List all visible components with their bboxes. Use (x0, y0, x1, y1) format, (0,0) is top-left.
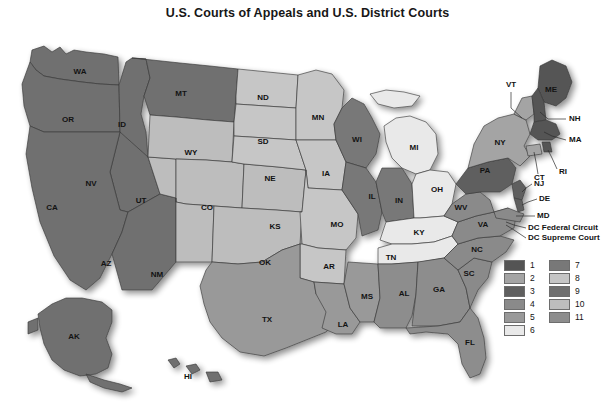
callout-label-NH: NH (569, 114, 581, 123)
legend-swatch-11 (549, 312, 570, 323)
legend-swatch-1 (504, 260, 525, 271)
state-PA[interactable] (456, 158, 516, 194)
state-HI[interactable] (168, 358, 222, 382)
legend-number-8: 8 (575, 274, 580, 283)
legend-item-2[interactable]: 2 (504, 272, 535, 285)
legend-item-10[interactable]: 10 (549, 298, 584, 311)
state-CT[interactable] (526, 144, 542, 156)
legend-item-3[interactable]: 3 (504, 285, 535, 298)
legend-item-1[interactable]: 1 (504, 259, 535, 272)
legend-swatch-7 (549, 260, 570, 271)
state-RI[interactable] (542, 142, 552, 152)
legend-number-6: 6 (530, 326, 535, 335)
legend-number-9: 9 (575, 287, 580, 296)
state-KS[interactable] (242, 164, 306, 212)
legend-item-5[interactable]: 5 (504, 311, 535, 324)
state-NM[interactable] (176, 198, 214, 262)
legend-swatch-2 (504, 273, 525, 284)
us-judicial-circuits-map[interactable]: WA OR ID MT NV CA AZ AK HI UT WY CO NM K… (0, 22, 615, 407)
state-MI[interactable] (370, 90, 438, 174)
leader-CT (534, 152, 538, 174)
legend-swatch-8 (549, 273, 570, 284)
states-layer (22, 46, 572, 392)
state-AL[interactable] (374, 262, 418, 328)
legend-item-9[interactable]: 9 (549, 285, 584, 298)
state-CA[interactable] (26, 126, 128, 290)
legend-column-right: 7 8 9 10 11 (549, 259, 584, 324)
legend-number-3: 3 (530, 287, 535, 296)
circuit-legend[interactable]: 1 2 3 4 5 6 (504, 259, 604, 341)
legend-item-11[interactable]: 11 (549, 311, 584, 324)
state-ND[interactable] (236, 69, 298, 108)
callout-label-MA: MA (569, 135, 582, 144)
callout-label-RI: RI (559, 167, 567, 176)
legend-number-5: 5 (530, 313, 535, 322)
legend-swatch-10 (549, 299, 570, 310)
state-label-HI: HI (184, 372, 192, 381)
legend-swatch-3 (504, 286, 525, 297)
legend-item-6[interactable]: 6 (504, 324, 535, 337)
state-AR[interactable] (300, 244, 346, 284)
legend-swatch-6 (504, 325, 525, 336)
legend-swatch-5 (504, 312, 525, 323)
state-CO[interactable] (176, 159, 244, 208)
legend-swatch-4 (504, 299, 525, 310)
legend-number-10: 10 (575, 300, 584, 309)
dc-supreme-court-label: DC Supreme Court (528, 233, 600, 242)
callout-label-VT: VT (506, 80, 516, 89)
leader-DE (522, 199, 537, 205)
leader-RI (548, 150, 557, 169)
state-NY[interactable] (468, 114, 530, 168)
page-title: U.S. Courts of Appeals and U.S. District… (0, 6, 615, 20)
legend-number-1: 1 (530, 261, 535, 270)
state-WY[interactable] (148, 115, 234, 162)
dc-federal-circuit-label: DC Federal Circuit (528, 223, 598, 232)
legend-swatch-9 (549, 286, 570, 297)
legend-item-7[interactable]: 7 (549, 259, 584, 272)
legend-column-left: 1 2 3 4 5 6 (504, 259, 535, 337)
legend-number-11: 11 (575, 313, 584, 322)
state-MT[interactable] (132, 58, 238, 122)
legend-number-7: 7 (575, 261, 580, 270)
callout-label-MD: MD (537, 211, 550, 220)
legend-item-8[interactable]: 8 (549, 272, 584, 285)
callout-label-NJ: NJ (534, 179, 544, 188)
state-SD[interactable] (234, 104, 296, 140)
callout-label-DE: DE (539, 194, 551, 203)
legend-number-2: 2 (530, 274, 535, 283)
map-figure: U.S. Courts of Appeals and U.S. District… (0, 0, 615, 407)
legend-number-4: 4 (530, 300, 535, 309)
state-AK[interactable] (28, 298, 132, 392)
legend-item-4[interactable]: 4 (504, 298, 535, 311)
